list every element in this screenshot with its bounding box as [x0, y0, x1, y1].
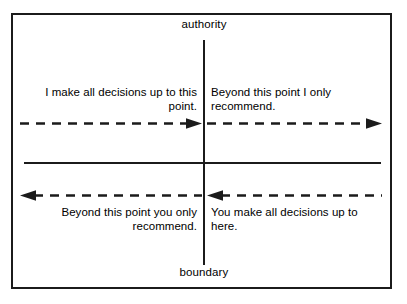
axis-label-authority: authority [134, 18, 274, 30]
quadrant-text-top-left: I make all decisions up to this point. [40, 86, 197, 113]
horizontal-divider-line [24, 162, 381, 164]
vertical-axis-line [203, 40, 205, 265]
quadrant-text-bottom-left: Beyond this point you only recommend. [30, 206, 197, 233]
quadrant-text-bottom-right: You make all decisions up to here. [211, 206, 381, 233]
quadrant-text-top-right: Beyond this point I only recommend. [211, 86, 381, 113]
top-left-arrow-right-icon [20, 118, 202, 129]
bottom-left-arrow-left-icon [20, 190, 202, 201]
top-right-arrow-right-icon [207, 118, 382, 129]
bottom-right-arrow-left-icon [207, 190, 382, 201]
axis-label-boundary: boundary [134, 266, 274, 278]
diagram-frame [11, 13, 392, 289]
diagram-canvas: authority boundary I make all decisions … [0, 0, 407, 304]
